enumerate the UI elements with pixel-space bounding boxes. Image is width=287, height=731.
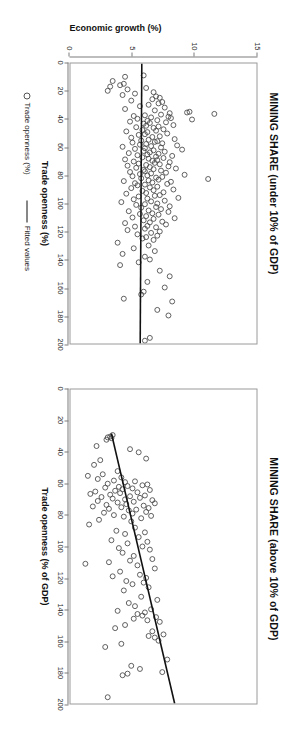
scatter-point	[122, 220, 127, 225]
scatter-point	[179, 147, 184, 152]
x-tick	[64, 672, 68, 673]
scatter-point	[158, 168, 163, 173]
scatter-point	[162, 105, 167, 110]
scatter-point	[131, 553, 136, 558]
scatter-point	[165, 163, 170, 168]
legend-item-points: Trade openness (%)	[22, 92, 31, 174]
scatter-point	[144, 279, 149, 284]
scatter-point	[151, 89, 156, 94]
scatter-point	[130, 581, 135, 586]
x-tick-label: 60	[55, 142, 64, 150]
scatter-point	[148, 198, 153, 203]
x-tick-label: 20	[55, 86, 64, 94]
legend-item-fit: Fitted values	[22, 200, 31, 270]
scatter-point	[102, 644, 107, 649]
x-tick-label: 180	[55, 666, 64, 679]
scatter-point	[136, 132, 141, 137]
y-axis-line-under	[69, 56, 257, 57]
scatter-point	[133, 124, 138, 129]
scatter-point	[107, 492, 112, 497]
scatter-point	[132, 91, 137, 96]
scatter-point	[137, 666, 142, 671]
scatter-point	[107, 84, 112, 89]
scatter-point	[147, 547, 152, 552]
x-tick-label: 200	[55, 698, 64, 711]
scatter-point	[121, 514, 126, 519]
fitted-values-line	[111, 433, 174, 703]
y-tick-label: 15	[253, 26, 262, 50]
scatter-point	[115, 500, 120, 505]
scatter-point	[146, 208, 151, 213]
scatter-point	[122, 106, 127, 111]
scatter-point	[151, 125, 156, 130]
scatter-point	[149, 96, 154, 101]
scatter-point	[170, 187, 175, 192]
scatter-point	[146, 137, 151, 142]
scatter-point	[96, 517, 101, 522]
scatter-point	[120, 251, 125, 256]
figure-viewport: MINING SHARE (under 10% of GDP) 051015 E…	[0, 0, 287, 731]
scatter-point	[94, 443, 99, 448]
scatter-point	[142, 131, 147, 136]
scatter-point	[174, 142, 179, 147]
legend-label-points: Trade openness (%)	[22, 102, 31, 174]
scatter-point	[121, 296, 126, 301]
scatter-point	[163, 119, 168, 124]
x-tick-label: 100	[55, 197, 64, 210]
scatter-point	[152, 107, 157, 112]
x-tick	[64, 609, 68, 610]
x-tick-label: 20	[55, 415, 64, 423]
scatter-point	[125, 540, 130, 545]
panel-mining-share-under: MINING SHARE (under 10% of GDP) 051015 E…	[0, 0, 287, 366]
scatter-point	[91, 462, 96, 467]
scatter-point	[144, 196, 149, 201]
scatter-point	[156, 212, 161, 217]
scatter-point	[110, 78, 115, 83]
scatter-point	[149, 210, 154, 215]
scatter-point	[131, 245, 136, 250]
scatter-point	[167, 159, 172, 164]
scatter-point	[123, 128, 128, 133]
scatter-point	[130, 173, 135, 178]
scatter-point	[139, 544, 144, 549]
x-tick-label: 120	[55, 571, 64, 584]
scatter-point	[154, 597, 159, 602]
scatter-point	[175, 195, 180, 200]
scatter-point	[159, 669, 164, 674]
scatter-point	[134, 489, 139, 494]
x-tick-label: 120	[55, 225, 64, 238]
scatter-point	[162, 198, 167, 203]
scatter-point	[172, 136, 177, 141]
scatter-point	[120, 144, 125, 149]
x-tick	[64, 483, 68, 484]
y-axis-title: Economic growth (%)	[69, 22, 161, 32]
scatter-point	[134, 116, 139, 121]
x-tick	[64, 641, 68, 642]
scatter-point	[165, 313, 170, 318]
scatter-point	[105, 694, 110, 699]
scatter-point	[148, 230, 153, 235]
x-tick-label: 180	[55, 310, 64, 323]
scatter-point	[158, 112, 163, 117]
scatter-point	[142, 254, 147, 259]
scatter-point	[142, 182, 147, 187]
scatter-point	[113, 528, 118, 533]
scatter-point	[144, 617, 149, 622]
x-tick-label: 80	[55, 171, 64, 179]
scatter-point	[149, 628, 154, 633]
scatter-point	[95, 476, 100, 481]
scatter-point	[142, 145, 147, 150]
scatter-point	[148, 513, 153, 518]
scatter-point	[115, 468, 120, 473]
scatter-point	[164, 181, 169, 186]
y-tick	[68, 52, 69, 56]
scatter-point	[143, 509, 148, 514]
scatter-point	[134, 231, 139, 236]
scatter-point	[120, 672, 125, 677]
x-tick-label: 160	[55, 635, 64, 648]
scatter-point	[110, 496, 115, 501]
scatter-point	[167, 203, 172, 208]
scatter-point	[85, 473, 90, 478]
scatter-point	[146, 633, 151, 638]
scatter-point	[131, 159, 136, 164]
